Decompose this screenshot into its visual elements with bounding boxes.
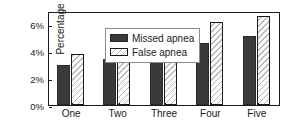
plot-area: Percentage 0%2%4%6% Missed apnea False a…: [48, 12, 280, 106]
bar-false-apnea: [257, 16, 270, 105]
bar-group: [49, 13, 95, 105]
x-tick-mark: [211, 103, 212, 106]
x-tick-mark: [72, 103, 73, 106]
bar-missed-apnea: [243, 36, 256, 105]
y-tick-label: 2%: [30, 73, 44, 86]
legend-swatch-false-apnea: [110, 48, 128, 56]
x-tick-mark: [119, 103, 120, 106]
legend-item-false-apnea: False apnea: [110, 45, 194, 59]
legend-item-missed-apnea: Missed apnea: [110, 31, 194, 45]
chart-legend: Missed apnea False apnea: [105, 28, 200, 63]
bar-chart: Percentage 0%2%4%6% Missed apnea False a…: [0, 0, 287, 128]
bar-group: [235, 13, 281, 105]
legend-label-missed-apnea: Missed apnea: [132, 33, 194, 44]
x-tick-mark: [165, 103, 166, 106]
bar-false-apnea: [210, 22, 223, 105]
legend-swatch-missed-apnea: [110, 34, 128, 42]
x-axis-label-five: Five: [227, 108, 287, 119]
y-tick-label: 4%: [30, 46, 44, 59]
legend-label-false-apnea: False apnea: [132, 47, 187, 58]
x-tick-mark: [258, 103, 259, 106]
bar-missed-apnea: [57, 65, 70, 105]
bar-false-apnea: [71, 54, 84, 105]
bar-missed-apnea: [103, 59, 116, 105]
y-tick-label: 6%: [30, 19, 44, 32]
